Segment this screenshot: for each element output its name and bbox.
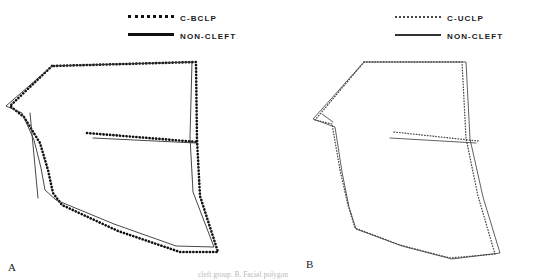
series-non-cleft: [6, 62, 214, 247]
figure-caption: cleft group. B. Facial polygon: [198, 271, 554, 279]
panel-a: C-BCLP NON-CLEFT A: [0, 0, 277, 279]
series-non-cleft: [313, 62, 500, 259]
polygon-plot-a: [0, 0, 277, 279]
panel-letter-b: B: [306, 259, 313, 270]
series-nasal-stem: [322, 114, 333, 122]
polygon-plot-b: [277, 0, 554, 279]
series-nasal-stem: [30, 113, 38, 198]
panel-letter-a: A: [8, 262, 16, 273]
series-c-uclp: [315, 62, 495, 258]
series-c-bclp: [10, 62, 218, 252]
series-internal-line-solid: [390, 138, 476, 143]
series-internal-line-dotted: [394, 132, 478, 141]
facial-polygon-figure: C-BCLP NON-CLEFT A C-UCLP NON-CLEFT B cl…: [0, 0, 554, 279]
panel-b: C-UCLP NON-CLEFT B: [277, 0, 554, 279]
